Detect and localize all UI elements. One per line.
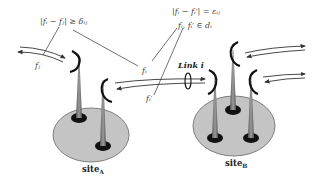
freq-fi-prime-label: fᵢ′ — [145, 94, 153, 103]
interference-constraint-label: |fᵢ − fⱼ| ≥ δᵢⱼ — [40, 17, 88, 26]
link-arrows — [18, 46, 305, 89]
leader-lines — [43, 27, 183, 95]
link-i-label: Link i — [177, 60, 204, 70]
site-b-label: siteB — [225, 158, 247, 169]
link-i-marker — [185, 73, 191, 89]
freq-fi-label: fᵢ — [141, 66, 147, 75]
site-b: siteB — [193, 42, 275, 169]
site-a-ground — [53, 108, 129, 162]
domain-constraint-label: fᵢ, fᵢ′ ∈ dᵢ — [177, 21, 212, 30]
arrow-b1-out — [245, 46, 305, 53]
site-a: siteA — [53, 51, 129, 175]
site-a-label: siteA — [82, 164, 104, 175]
freq-fj-label: fⱼ — [34, 61, 41, 70]
arrow-link-in — [117, 83, 205, 89]
arrow-fj-in — [18, 52, 63, 62]
arrow-b2-in — [265, 78, 305, 82]
frequency-assignment-diagram: siteA siteB Link i — [0, 0, 321, 182]
pair-constraint-label: |fᵢ − fᵢ′| = εᵢⱼ — [172, 7, 221, 16]
arrow-b2-out — [263, 74, 305, 77]
